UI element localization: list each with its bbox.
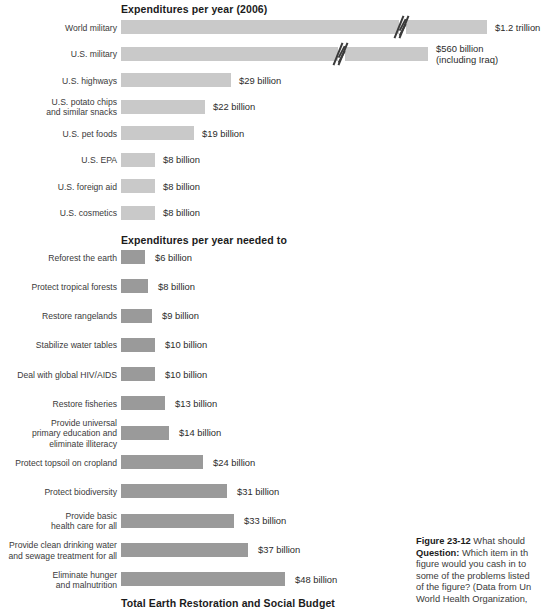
bar-row-label: U.S. military <box>0 49 117 59</box>
section-heading-expenditures-2006: Expenditures per year (2006) <box>121 3 267 15</box>
bar <box>121 514 234 528</box>
figure-caption: Figure 23-12 What should Question: Which… <box>416 536 555 606</box>
bar-row-label: Eliminate hunger and malnutrition <box>0 570 117 590</box>
section-heading-expenditures-needed: Expenditures per year needed to <box>121 234 287 246</box>
bar <box>121 455 203 469</box>
bar-row: U.S. potato chips and similar snacks$22 … <box>0 100 555 127</box>
bar-row-label: Protect biodiversity <box>0 487 117 497</box>
figure-23-12: Expenditures per year (2006) World milit… <box>0 0 555 616</box>
bar <box>121 367 155 381</box>
bar-row: Stabilize water tables$10 billion <box>0 338 555 367</box>
bar-value-label: $22 billion <box>213 101 255 112</box>
bar-row-label: U.S. highways <box>0 76 117 86</box>
bar-value-label: $9 billion <box>162 310 199 321</box>
bar-row: Reforest the earth$6 billion <box>0 250 555 279</box>
bar-value-label: $8 billion <box>163 154 200 165</box>
bar-row: U.S. foreign aid$8 billion <box>0 179 555 206</box>
axis-break-mask <box>338 47 345 61</box>
bar <box>121 279 148 293</box>
caption-line-5: World Health Organization, <box>416 594 527 604</box>
bar-row: U.S. EPA$8 billion <box>0 153 555 180</box>
bar <box>121 396 165 410</box>
bar <box>121 484 227 498</box>
bar <box>121 309 152 323</box>
bar-row-label: Provide clean drinking water and sewage … <box>0 540 117 560</box>
bar-row-label: U.S. pet foods <box>0 129 117 139</box>
bar <box>121 153 155 167</box>
section-heading-total-budget: Total Earth Restoration and Social Budge… <box>121 597 335 609</box>
caption-line-2: figure would you cash in to <box>416 559 526 569</box>
bar <box>121 126 194 140</box>
bar-value-label: $6 billion <box>155 252 192 263</box>
bar-row-label: U.S. cosmetics <box>0 208 117 218</box>
axis-break-mask <box>399 20 406 34</box>
bar-row: Protect topsoil on cropland$24 billion <box>0 455 555 484</box>
bar <box>121 73 231 87</box>
bar-value-label: $13 billion <box>175 398 217 409</box>
bar-value-label: $14 billion <box>179 427 221 438</box>
bar-row: U.S. highways$29 billion <box>0 73 555 100</box>
bar-row-label: Restore rangelands <box>0 311 117 321</box>
bar <box>121 20 487 34</box>
bar-row-label: U.S. foreign aid <box>0 182 117 192</box>
bar-value-label: $31 billion <box>237 486 279 497</box>
bar-row: Protect tropical forests$8 billion <box>0 279 555 308</box>
bar-row-label: Restore fisheries <box>0 399 117 409</box>
bar-value-label: $560 billion (including Iraq) <box>436 43 498 65</box>
bar-row-label: Protect topsoil on cropland <box>0 458 117 468</box>
bar-row-label: Deal with global HIV/AIDS <box>0 370 117 380</box>
bar-row-label: Stabilize water tables <box>0 340 117 350</box>
bar-value-label: $19 billion <box>202 128 244 139</box>
caption-line-3: some of the problems listed <box>416 571 530 581</box>
bar-row-label: U.S. EPA <box>0 155 117 165</box>
bar-value-label: $48 billion <box>295 574 337 585</box>
bar <box>121 426 169 440</box>
bar-row-label: Reforest the earth <box>0 253 117 263</box>
bar-value-label: $10 billion <box>165 339 207 350</box>
bar <box>121 47 428 61</box>
caption-question-label: Question: <box>416 548 459 558</box>
bar-value-label: $24 billion <box>213 457 255 468</box>
bar <box>121 572 285 586</box>
bar-row: U.S. cosmetics$8 billion <box>0 206 555 233</box>
bar-value-label: $8 billion <box>163 181 200 192</box>
bar-row-label: Provide basic health care for all <box>0 511 117 531</box>
bar-value-label: $8 billion <box>163 207 200 218</box>
bar-row: Provide universal primary education and … <box>0 426 555 455</box>
bar <box>121 206 155 220</box>
bar-row: U.S. pet foods$19 billion <box>0 126 555 153</box>
bar-value-label: $29 billion <box>239 75 281 86</box>
caption-line-4: of the figure? (Data from Un <box>416 582 531 592</box>
bar-value-label: $10 billion <box>165 369 207 380</box>
bar-row-label: Protect tropical forests <box>0 282 117 292</box>
bar-value-label: $37 billion <box>258 544 300 555</box>
bar <box>121 338 155 352</box>
bar <box>121 250 145 264</box>
caption-line-1: Which item in th <box>459 548 528 558</box>
bar-row: Restore rangelands$9 billion <box>0 309 555 338</box>
bar-row-label: Provide universal primary education and … <box>0 418 117 449</box>
bar-row: Protect biodiversity$31 billion <box>0 484 555 513</box>
bar-group-expenditures-2006: World military$1.2 trillionU.S. military… <box>0 20 555 232</box>
bar-row-label: World military <box>0 23 117 33</box>
bar-row-label: U.S. potato chips and similar snacks <box>0 97 117 117</box>
caption-figure-number: Figure 23-12 <box>416 536 471 546</box>
caption-lead: What should <box>471 536 525 546</box>
bar <box>121 100 205 114</box>
bar-row: Deal with global HIV/AIDS$10 billion <box>0 367 555 396</box>
bar-row: U.S. military$560 billion (including Ira… <box>0 47 555 74</box>
bar <box>121 179 155 193</box>
bar-value-label: $8 billion <box>158 281 195 292</box>
bar-value-label: $33 billion <box>244 515 286 526</box>
bar-value-label: $1.2 trillion <box>495 22 540 33</box>
bar <box>121 543 248 557</box>
